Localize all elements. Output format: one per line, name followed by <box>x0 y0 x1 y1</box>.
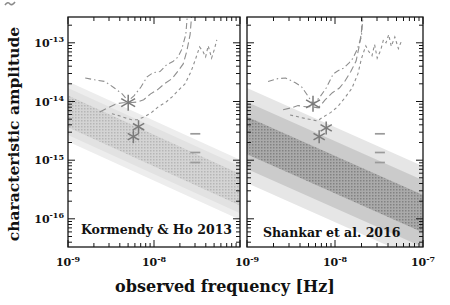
pta-sensitivity-longdash <box>283 14 362 110</box>
x-tick-label: 10-9 <box>56 254 81 270</box>
pta-star-marker <box>306 96 320 112</box>
panel-label-kormendy-ho: Kormendy & Ho 2013 <box>81 222 232 237</box>
panel-plot-area <box>68 14 240 220</box>
chart-canvas: 10-910-810-910-810-710-1310-1410-1510-16 <box>0 0 450 305</box>
pta-sensitivity-dashdot <box>85 14 187 101</box>
y-tick-label: 10-16 <box>34 210 64 226</box>
y-tick-label: 10-14 <box>34 93 64 109</box>
y-axis-title: characteristic amplitude <box>4 27 23 241</box>
y-tick-label: 10-15 <box>34 152 64 168</box>
scan-artifact-mark <box>5 2 15 5</box>
x-tick-label: 10-8 <box>142 254 167 270</box>
x-tick-label: 10-8 <box>323 254 348 270</box>
y-tick-label: 10-13 <box>34 34 64 50</box>
pta-sensitivity-dashdot <box>268 14 363 104</box>
x-axis-title: observed frequency [Hz] <box>115 277 335 296</box>
x-tick-label: 10-7 <box>411 254 435 270</box>
panel-label-shankar: Shankar et al. 2016 <box>263 225 400 240</box>
pta-sensitivity-longdash <box>100 14 192 113</box>
two-panel-gwb-figure: 10-910-810-910-810-710-1310-1410-1510-16… <box>0 0 450 305</box>
x-tick-label: 10-9 <box>235 254 260 270</box>
